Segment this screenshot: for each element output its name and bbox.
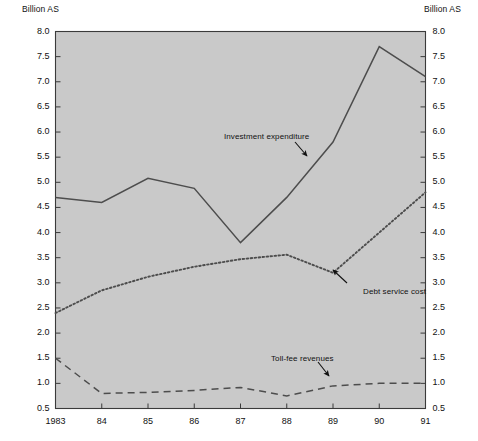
y-tick-label-right: 5.5 [433,151,463,161]
y-tick-label-right: 4.0 [433,227,463,237]
y-tick-label-left: 6.0 [20,126,50,136]
y-tick-label-left: 2.5 [20,302,50,312]
x-tick-label: 90 [359,416,399,426]
y-tick-label-left: 7.0 [20,76,50,86]
y-tick-label-left: 0.5 [20,403,50,413]
x-tick-label: 84 [82,416,122,426]
y-tick-label-left: 2.0 [20,327,50,337]
y-tick-label-left: 6.5 [20,101,50,111]
x-tick-label: 91 [406,416,446,426]
y-tick-label-right: 4.5 [433,201,463,211]
y-tick-label-right: 2.0 [433,327,463,337]
y-tick-label-left: 8.0 [20,26,50,36]
annotation-label: Debt service cost [363,287,426,296]
x-tick-label: 88 [267,416,307,426]
y-tick-label-left: 7.5 [20,51,50,61]
y-tick-label-left: 3.5 [20,252,50,262]
y-tick-label-left: 4.5 [20,201,50,211]
y-tick-label-right: 1.0 [433,377,463,387]
x-tick-label: 85 [128,416,168,426]
y-tick-label-right: 8.0 [433,26,463,36]
y-tick-label-right: 2.5 [433,302,463,312]
y-tick-label-left: 3.0 [20,277,50,287]
y-tick-label-right: 5.0 [433,176,463,186]
x-tick-label: 89 [313,416,353,426]
chart-figure: Billion AS Billion AS 0.50.51.01.01.51.5… [0,0,478,441]
y-tick-label-right: 7.5 [433,51,463,61]
annotation-label: Toll-fee revenues [271,354,334,363]
y-tick-label-left: 5.0 [20,176,50,186]
y-tick-label-left: 4.0 [20,227,50,237]
y-tick-label-left: 1.5 [20,352,50,362]
x-tick-label: 86 [174,416,214,426]
x-tick-label: 87 [221,416,261,426]
x-tick-label: 1983 [36,416,76,426]
y-tick-label-right: 3.0 [433,277,463,287]
plot-canvas [0,0,478,441]
y-tick-label-right: 7.0 [433,76,463,86]
y-tick-label-left: 5.5 [20,151,50,161]
y-tick-label-right: 6.5 [433,101,463,111]
y-tick-label-right: 3.5 [433,252,463,262]
y-tick-label-right: 0.5 [433,403,463,413]
plot-background [56,32,426,409]
y-tick-label-right: 6.0 [433,126,463,136]
annotation-label: Investment expenditure [224,132,309,141]
y-tick-label-left: 1.0 [20,377,50,387]
y-tick-label-right: 1.5 [433,352,463,362]
